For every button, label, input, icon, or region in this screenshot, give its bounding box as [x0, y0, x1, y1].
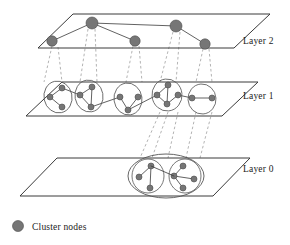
cluster-node-L1-c2[interactable]: [89, 84, 95, 90]
projection-line-l2-l1: [58, 47, 62, 82]
layered-network-diagram: Layer 2Layer 1Layer 0Cluster nodes: [0, 0, 290, 245]
cluster-node-L1-c2[interactable]: [88, 104, 94, 110]
legend-label-cluster-nodes: Cluster nodes: [32, 222, 87, 232]
cluster-node-L1-c5[interactable]: [209, 95, 215, 101]
cluster-node-L0-c1[interactable]: [136, 174, 142, 180]
legend-marker-cluster-nodes: [13, 221, 24, 232]
cluster-node-layer2[interactable]: [170, 20, 182, 32]
layer-plane-layer2[interactable]: [38, 14, 270, 48]
cluster-node-L1-c3[interactable]: [117, 94, 123, 100]
projection-line-l2-l1: [44, 46, 52, 82]
layer-group-layer2: [38, 14, 270, 49]
projection-line-l2-l1: [139, 46, 142, 82]
diagram-canvas: Layer 2Layer 1Layer 0Cluster nodes: [0, 0, 290, 245]
projection-line-l1-l0: [186, 112, 196, 158]
layer-group-layer1: [26, 78, 258, 117]
cluster-node-L1-c1[interactable]: [59, 104, 65, 110]
cluster-node-L0-c1[interactable]: [147, 185, 153, 191]
projection-line-l2-l1: [209, 49, 212, 82]
projection-line-l1-l0: [168, 112, 178, 158]
cluster-node-L0-c2[interactable]: [191, 176, 197, 182]
projection-line-l1-l0: [152, 112, 168, 158]
layer-group-layer0: [20, 154, 250, 198]
cluster-node-L1-c4[interactable]: [164, 101, 170, 107]
projection-line-l2-l1: [126, 46, 133, 82]
cluster-node-L0-c2[interactable]: [180, 185, 186, 191]
projection-line-l1-l0: [140, 112, 160, 158]
legend-group: Cluster nodes: [13, 221, 87, 233]
cluster-node-L1-c1[interactable]: [59, 85, 65, 91]
cluster-node-layer2[interactable]: [47, 36, 57, 46]
projection-line-l2-l1: [196, 49, 203, 82]
cluster-node-L1-c4[interactable]: [165, 82, 171, 88]
cluster-node-L1-c4[interactable]: [175, 92, 181, 98]
cluster-node-L1-c3[interactable]: [135, 94, 141, 100]
layer-label-layer2: Layer 2: [243, 36, 274, 46]
cluster-node-L1-c3[interactable]: [125, 107, 131, 113]
cluster-node-L1-c1[interactable]: [47, 94, 53, 100]
layer-label-layer0: Layer 0: [243, 164, 274, 174]
cluster-node-layer2[interactable]: [86, 17, 98, 29]
projection-line-l1-l0: [200, 112, 212, 158]
cluster-node-layer2[interactable]: [200, 39, 210, 49]
layer-label-layer1: Layer 1: [243, 91, 274, 101]
cluster-node-L1-c5[interactable]: [189, 95, 195, 101]
cluster-node-layer2[interactable]: [130, 36, 140, 46]
cluster-node-L0-c2[interactable]: [180, 163, 186, 169]
cluster-node-L1-c2[interactable]: [77, 92, 83, 98]
cluster-node-L1-c4[interactable]: [154, 92, 160, 98]
